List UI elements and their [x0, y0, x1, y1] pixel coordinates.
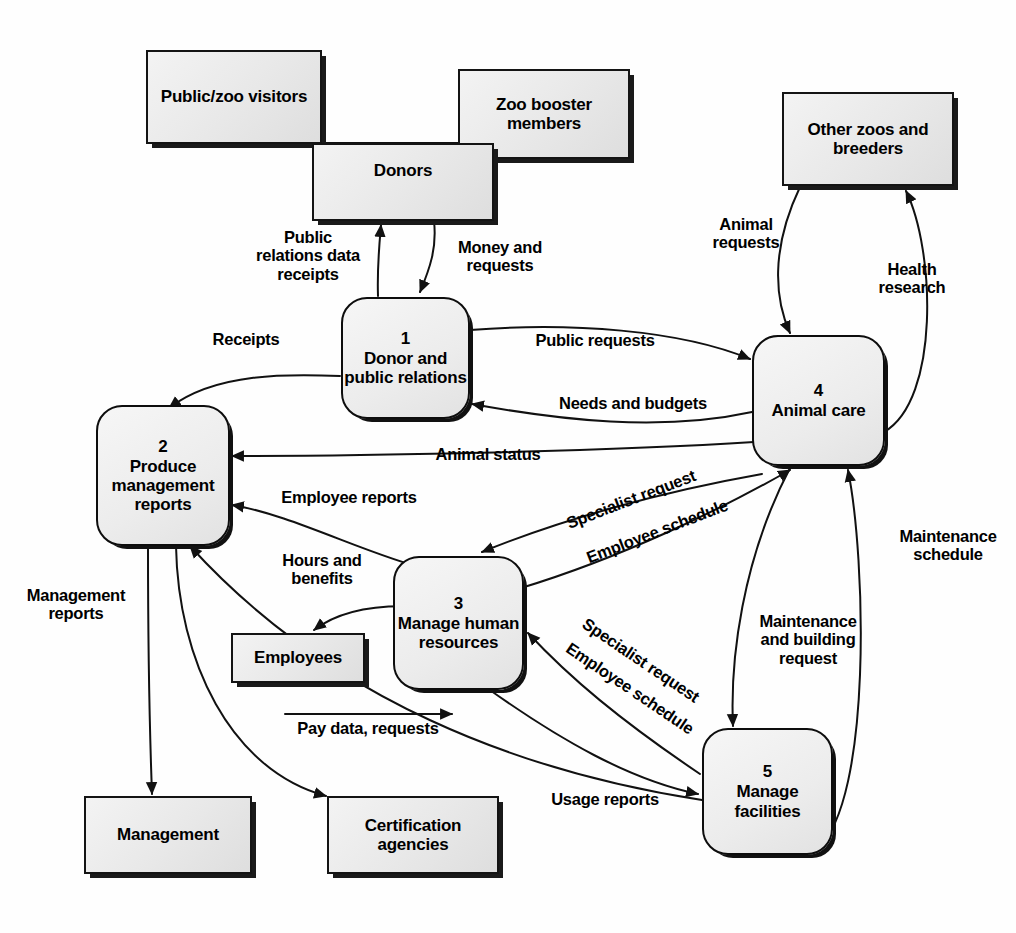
process-number: 3 — [454, 594, 463, 614]
arrow-specialist-request-animal-care — [482, 474, 762, 552]
entity-label: Public/zoo visitors — [161, 87, 307, 106]
entity-label: Other zoos and breeders — [784, 120, 952, 158]
process-number: 4 — [814, 381, 823, 401]
entity-donors[interactable]: Donors — [312, 143, 494, 221]
entity-other-zoos-and-breeders[interactable]: Other zoos and breeders — [782, 92, 954, 186]
process-number: 1 — [401, 329, 410, 349]
process-number: 2 — [158, 437, 167, 457]
entity-label: Management — [117, 825, 219, 844]
process-3-manage-human-resources[interactable]: 3 Manage human resources — [393, 556, 524, 690]
process-2-produce-management-reports[interactable]: 2 Produce management reports — [96, 405, 230, 546]
arrow-needs-and-budgets — [472, 404, 752, 422]
process-name: Donor and public relations — [343, 349, 468, 387]
arrow-specialist-request-facilities — [528, 633, 700, 774]
process-4-animal-care[interactable]: 4 Animal care — [752, 335, 885, 466]
arrow-money-and-requests — [420, 221, 435, 292]
arrow-receipts — [169, 375, 340, 408]
process-name: Manage facilities — [704, 782, 831, 820]
entity-employees[interactable]: Employees — [231, 633, 365, 683]
arrow-management-reports — [148, 546, 152, 794]
entity-label: Donors — [374, 161, 432, 180]
entity-public-zoo-visitors[interactable]: Public/zoo visitors — [146, 50, 322, 144]
dfd-canvas: Public/zoo visitors Zoo booster members … — [0, 0, 1016, 933]
entity-certification-agencies[interactable]: Certification agencies — [327, 796, 499, 874]
arrow-animal-requests — [778, 187, 800, 333]
entity-management[interactable]: Management — [84, 796, 252, 874]
arrow-animal-status — [232, 442, 754, 456]
arrow-maintenance-and-building-request — [733, 468, 790, 726]
arrow-public-relations-data-receipts — [378, 225, 381, 296]
process-name: Animal care — [771, 401, 865, 420]
arrow-public-requests — [470, 327, 750, 359]
entity-label: Employees — [254, 648, 342, 667]
arrow-employee-reports — [232, 505, 430, 570]
process-5-manage-facilities[interactable]: 5 Manage facilities — [702, 728, 833, 855]
process-1-donor-and-public-relations[interactable]: 1 Donor and public relations — [341, 297, 470, 419]
entity-label: Zoo booster members — [460, 95, 628, 133]
process-name: Manage human resources — [395, 614, 522, 652]
process-name: Produce management reports — [98, 457, 228, 515]
arrow-health-research — [884, 191, 927, 432]
entity-label: Certification agencies — [329, 816, 497, 854]
process-number: 5 — [763, 762, 772, 782]
